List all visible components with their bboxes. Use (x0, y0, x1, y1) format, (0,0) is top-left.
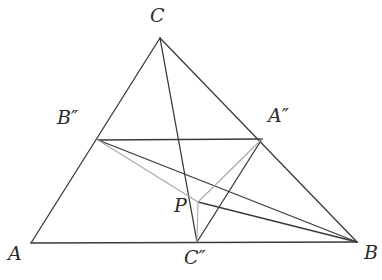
point-label-A: A (8, 244, 22, 263)
segment-B2-to-B (98, 140, 357, 242)
segment-P-to-C2 (197, 202, 198, 242)
point-label-C: C (150, 6, 165, 25)
segment-B2-A2 (98, 139, 262, 140)
side-AC (31, 38, 160, 243)
point-label-P: P (174, 196, 187, 215)
point-label-B: B (364, 243, 378, 262)
point-label-C-double-prime: C″ (184, 248, 206, 267)
side-AB (31, 242, 357, 243)
diagram-canvas (0, 0, 382, 280)
segment-P-to-B (198, 202, 357, 242)
geometry-figure: A B C A″ B″ C″ P (0, 0, 382, 280)
segments-group (31, 38, 357, 243)
point-label-A-double-prime: A″ (268, 106, 289, 125)
cevian-A2-to-C2 (197, 139, 262, 242)
segment-B2-to-P (98, 140, 198, 202)
point-label-B-double-prime: B″ (57, 108, 78, 127)
